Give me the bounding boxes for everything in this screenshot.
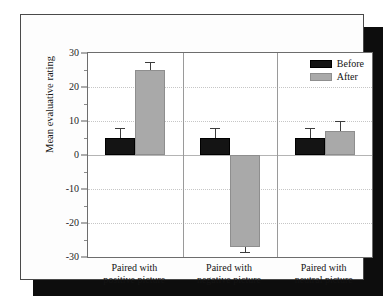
gridline-10 — [88, 121, 372, 122]
legend-label-after: After — [337, 72, 358, 82]
y-tick-mark--30 — [81, 257, 87, 258]
errorbar-stem-before-group2 — [215, 128, 216, 138]
category-label-3-line1: Paired with — [264, 262, 384, 274]
errorbar-cap-after-group1 — [145, 62, 155, 63]
errorbar-cap-after-group3 — [335, 121, 345, 122]
bar-after-group1 — [135, 70, 165, 155]
y-minor-tick--15 — [84, 206, 87, 207]
errorbar-stem-before-group1 — [120, 128, 121, 138]
legend-swatch-before-icon — [310, 60, 332, 68]
y-tick-label--20: -20 — [66, 218, 79, 228]
y-tick-mark-0 — [81, 155, 87, 156]
y-tick-label--10: -10 — [66, 184, 79, 194]
gridline-20 — [88, 87, 372, 88]
errorbar-cap-after-group2 — [240, 252, 250, 253]
y-minor-tick--25 — [84, 240, 87, 241]
y-tick-mark--20 — [81, 223, 87, 224]
y-minor-tick-15 — [84, 104, 87, 105]
legend-label-before: Before — [337, 59, 364, 69]
plot-area: Before After — [87, 52, 373, 258]
bar-before-group1 — [105, 138, 135, 155]
y-tick-label-30: 30 — [69, 48, 79, 58]
bar-after-group3 — [325, 131, 355, 155]
legend-item-before: Before — [310, 59, 364, 69]
y-tick-label-20: 20 — [69, 82, 79, 92]
errorbar-stem-before-group3 — [310, 128, 311, 138]
group-separator-1 — [183, 53, 184, 257]
y-minor-tick--5 — [84, 172, 87, 173]
errorbar-cap-before-group2 — [210, 128, 220, 129]
y-tick-mark--10 — [81, 189, 87, 190]
y-tick-label-10: 10 — [69, 116, 79, 126]
y-tick-label--30: -30 — [66, 252, 79, 262]
bar-after-group2 — [230, 155, 260, 247]
errorbar-stem-after-group3 — [340, 121, 341, 131]
y-tick-label-0: 0 — [74, 150, 79, 160]
category-label-3-line2: neutral picture — [264, 274, 384, 286]
y-tick-mark-10 — [81, 121, 87, 122]
chart-figure: Mean evaluative rating 3020100-10-20-30 … — [0, 0, 386, 300]
bar-before-group2 — [200, 138, 230, 155]
y-tick-mark-20 — [81, 87, 87, 88]
bar-before-group3 — [295, 138, 325, 155]
y-tick-mark-30 — [81, 53, 87, 54]
scanned-page: Mean evaluative rating 3020100-10-20-30 … — [20, 14, 364, 280]
y-minor-tick-25 — [84, 70, 87, 71]
group-separator-2 — [277, 53, 278, 257]
category-label-3: Paired withneutral picture — [264, 262, 384, 286]
y-minor-tick-5 — [84, 138, 87, 139]
legend-item-after: After — [310, 72, 364, 82]
errorbar-stem-after-group1 — [150, 62, 151, 71]
errorbar-cap-before-group1 — [115, 128, 125, 129]
errorbar-cap-before-group3 — [305, 128, 315, 129]
legend-swatch-after-icon — [310, 73, 332, 81]
y-axis-ticks: 3020100-10-20-30 — [47, 15, 79, 300]
chart-legend: Before After — [310, 59, 364, 82]
